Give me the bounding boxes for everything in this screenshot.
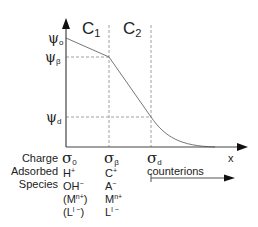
species-c-plus: C+: [105, 165, 117, 179]
species-ligand-anion: (Ll −): [63, 204, 84, 218]
x-axis-label: x: [228, 152, 234, 164]
counterions-arrow-icon: [224, 175, 235, 182]
y-axis-arrow-icon: [62, 18, 70, 29]
row-label-species: Species: [0, 178, 58, 190]
row-label-charge: Charge: [0, 152, 58, 164]
species-l-minus: Ll −: [105, 204, 119, 218]
x-axis-arrow-icon: [237, 143, 248, 151]
psi-beta-label: ψβ: [45, 50, 61, 69]
row-label-adsorbed: Adsorbed: [0, 165, 58, 177]
psi-0-label: ψo: [48, 31, 63, 50]
species-oh-minus: OH−: [63, 178, 84, 192]
species-m-n-plus: Mn+: [105, 191, 122, 205]
counterions-label: counterions: [147, 165, 204, 177]
species-a-minus: A−: [105, 178, 116, 192]
species-metal-cation: (Mn+): [63, 191, 87, 205]
psi-d-label: ψd: [46, 110, 61, 129]
species-h-plus: H+: [63, 165, 75, 179]
region-c1-label: C1: [82, 20, 100, 42]
region-c2-label: C2: [123, 20, 141, 42]
potential-curve: [66, 38, 215, 147]
